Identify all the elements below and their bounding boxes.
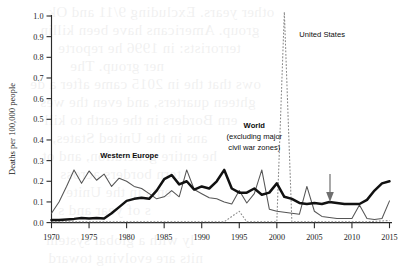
y-tick-label: 0.7	[33, 74, 43, 83]
x-tick-label: 1975	[81, 233, 97, 242]
western-europe-label: Western Europe	[100, 151, 158, 160]
y-tick-label: 0.2	[33, 177, 43, 186]
decline-arrow-icon	[326, 174, 334, 202]
world-label-line3: civil war zones)	[228, 143, 280, 152]
x-tick-label: 2015	[381, 233, 397, 242]
x-tick-label: 2010	[344, 233, 360, 242]
y-axis-tick-labels: 0.00.10.20.30.40.50.60.70.80.91.0	[33, 12, 43, 228]
y-tick-label: 0.1	[33, 198, 43, 207]
y-tick-label: 0.0	[33, 219, 43, 228]
x-tick-label: 1995	[231, 233, 247, 242]
chart-annotations: Western Europe World (excluding major ci…	[100, 30, 345, 202]
y-tick-label: 0.5	[33, 115, 43, 124]
x-axis: 1970197519801985199019952000200520102015	[43, 223, 397, 242]
series-line-world	[52, 170, 390, 220]
x-tick-label: 2005	[306, 233, 322, 242]
y-tick-label: 1.0	[33, 12, 43, 21]
y-tick-label: 0.3	[33, 157, 43, 166]
united-states-label: United States	[299, 30, 345, 39]
y-axis-ticks	[47, 16, 52, 223]
y-tick-label: 0.4	[33, 136, 43, 145]
y-axis: 0.00.10.20.30.40.50.60.70.80.91.0	[33, 12, 51, 228]
x-tick-label: 1990	[194, 233, 210, 242]
y-tick-label: 0.6	[33, 95, 43, 104]
x-tick-label: 2000	[269, 233, 285, 242]
x-tick-label: 1985	[156, 233, 172, 242]
world-label-line1: World	[244, 121, 266, 130]
x-tick-label: 1980	[118, 233, 134, 242]
x-axis-ticks	[52, 223, 390, 229]
y-axis-title: Deaths per 100,000 people	[7, 83, 17, 175]
world-label-line2: (excluding major	[226, 132, 282, 141]
x-axis-tick-labels: 1970197519801985199019952000200520102015	[43, 233, 397, 242]
y-tick-label: 0.9	[33, 33, 43, 42]
series-line-united-states	[52, 12, 390, 222]
series-lines	[52, 12, 390, 222]
y-tick-label: 0.8	[33, 53, 43, 62]
x-tick-label: 1970	[43, 233, 59, 242]
